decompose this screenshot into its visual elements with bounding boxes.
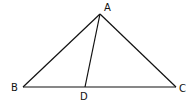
label-c: C: [179, 83, 186, 94]
label-a: A: [104, 2, 111, 13]
label-d: D: [80, 91, 88, 102]
segment-ac: [100, 14, 176, 87]
segment-ab: [23, 14, 100, 87]
label-b: B: [11, 82, 18, 93]
triangle-diagram: A B C D: [0, 0, 195, 111]
segment-ad: [85, 14, 100, 87]
